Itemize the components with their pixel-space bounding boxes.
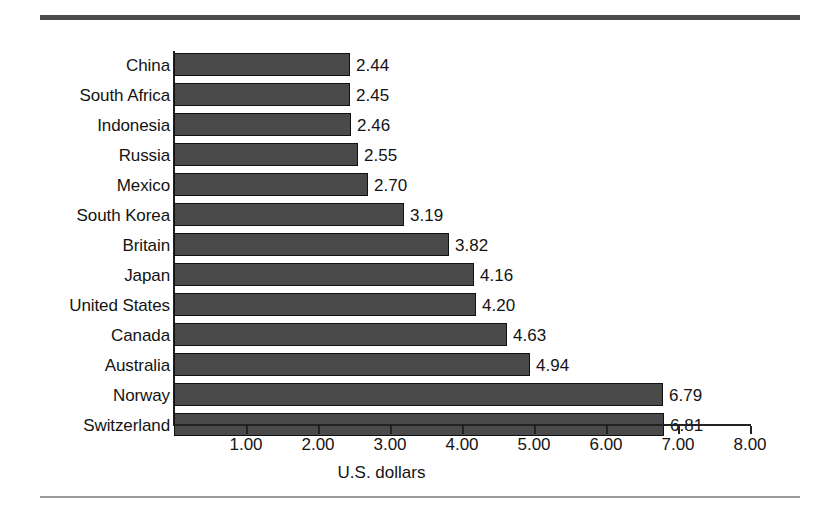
- bar-row: Australia4.94: [0, 353, 833, 376]
- category-label: South Korea: [77, 206, 170, 223]
- bar-row: Norway6.79: [0, 383, 833, 406]
- category-label: Indonesia: [97, 116, 170, 133]
- bar: [174, 233, 449, 256]
- bar-row: South Korea3.19: [0, 203, 833, 226]
- bar-value-label: 2.46: [357, 116, 390, 133]
- category-label: Russia: [119, 146, 170, 163]
- category-label: Mexico: [117, 176, 170, 193]
- bar-row: South Africa2.45: [0, 83, 833, 106]
- category-label: Canada: [111, 326, 170, 343]
- bar-value-label: 6.79: [669, 386, 702, 403]
- bar-value-label: 4.63: [513, 326, 546, 343]
- bar-value-label: 4.16: [480, 266, 513, 283]
- bar-row: Indonesia2.46: [0, 113, 833, 136]
- bar-value-label: 2.70: [374, 176, 407, 193]
- x-axis-tick: [462, 426, 464, 434]
- category-label: Japan: [124, 266, 170, 283]
- category-label: South Africa: [80, 86, 170, 103]
- bar-row: China2.44: [0, 53, 833, 76]
- x-axis-tick-label: 7.00: [661, 436, 694, 453]
- x-axis-tick: [750, 426, 752, 434]
- x-axis-tick-label: 8.00: [733, 436, 766, 453]
- x-axis-tick: [606, 426, 608, 434]
- x-axis-tick: [318, 426, 320, 434]
- x-axis-tick-label: 4.00: [445, 436, 478, 453]
- bar: [174, 203, 404, 226]
- bar-value-label: 4.20: [482, 296, 515, 313]
- bar-value-label: 3.19: [410, 206, 443, 223]
- category-label: Switzerland: [83, 416, 170, 433]
- bar-row: Canada4.63: [0, 323, 833, 346]
- x-axis-tick: [246, 426, 248, 434]
- bar-value-label: 4.94: [536, 356, 569, 373]
- x-axis-tick: [390, 426, 392, 434]
- bar: [174, 293, 476, 316]
- bar-row: Mexico2.70: [0, 173, 833, 196]
- x-axis-title-text: U.S. dollars: [338, 464, 426, 481]
- category-label: Australia: [105, 356, 170, 373]
- bar: [174, 83, 350, 106]
- bar-row: Russia2.55: [0, 143, 833, 166]
- bar: [174, 323, 507, 346]
- bar: [174, 113, 351, 136]
- bar: [174, 353, 530, 376]
- bar-value-label: 2.44: [356, 56, 389, 73]
- x-axis-tick-label: 1.00: [229, 436, 262, 453]
- x-axis-tick: [678, 426, 680, 434]
- bar: [174, 173, 368, 196]
- x-axis-tick: [534, 426, 536, 434]
- bar-row: Japan4.16: [0, 263, 833, 286]
- bottom-horizontal-rule: [40, 496, 800, 498]
- bar: [174, 383, 663, 406]
- bar-chart-figure: China2.44South Africa2.45Indonesia2.46Ru…: [0, 0, 833, 520]
- x-axis-tick-label: 3.00: [373, 436, 406, 453]
- bar-value-label: 2.45: [356, 86, 389, 103]
- plot-area: China2.44South Africa2.45Indonesia2.46Ru…: [0, 0, 833, 520]
- x-axis-tick-label: 6.00: [589, 436, 622, 453]
- bar-row: Britain3.82: [0, 233, 833, 256]
- bar-value-label: 3.82: [455, 236, 488, 253]
- category-label: China: [126, 56, 170, 73]
- bar-value-label: 2.55: [364, 146, 397, 163]
- category-label: United States: [69, 296, 170, 313]
- x-axis-tick-label: 5.00: [517, 436, 550, 453]
- bar: [174, 263, 474, 286]
- bar-row: United States4.20: [0, 293, 833, 316]
- x-axis-tick-label: 2.00: [301, 436, 334, 453]
- category-label: Britain: [123, 236, 171, 253]
- x-axis-title: U.S. dollars: [0, 464, 833, 481]
- bar: [174, 53, 350, 76]
- bar: [174, 143, 358, 166]
- category-label: Norway: [113, 386, 170, 403]
